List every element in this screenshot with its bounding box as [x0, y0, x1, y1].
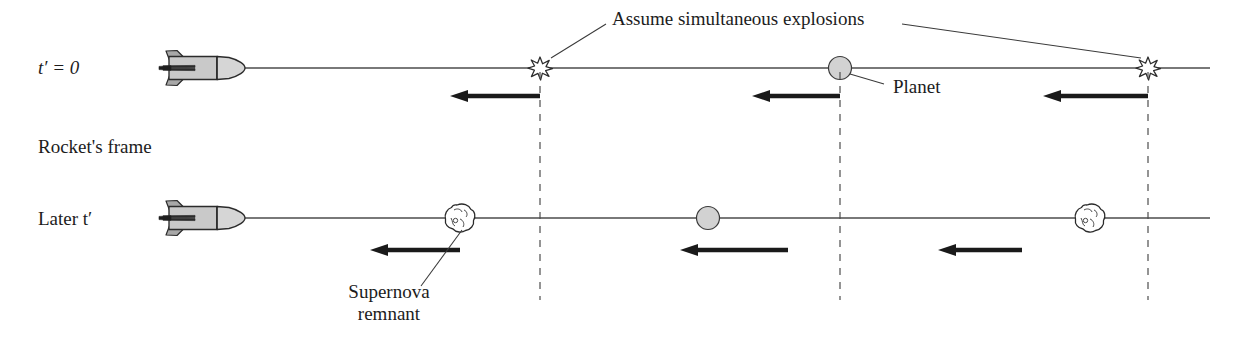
time-label-top: t′ = 0 — [38, 57, 79, 79]
supernova-remnant-right-icon — [1075, 204, 1105, 232]
leader-explosion-right — [902, 24, 1141, 58]
velocity-arrows-bottom — [370, 244, 1022, 256]
velocity-arrow — [752, 90, 840, 102]
rocket-top — [159, 51, 245, 86]
annotation-planet: Planet — [893, 76, 941, 98]
velocity-arrow — [680, 244, 788, 256]
dashed-guides — [540, 72, 1148, 300]
diagram-canvas — [0, 0, 1259, 346]
row-bottom-group — [159, 201, 1210, 257]
frame-label-text: Rocket's frame — [38, 136, 152, 157]
annotation-simultaneous-explosions-text: Assume simultaneous explosions — [612, 8, 864, 29]
velocity-arrow — [450, 90, 540, 102]
leader-planet — [850, 74, 884, 84]
velocity-arrow — [938, 244, 1022, 256]
planet-bottom-icon — [697, 207, 720, 230]
rocket-bottom — [159, 201, 245, 236]
annotation-supernova-remnant: Supernova remnant — [330, 281, 448, 326]
leader-explosion-left — [551, 24, 606, 58]
frame-label: Rocket's frame — [38, 136, 152, 158]
time-label-bottom-text: Later t′ — [38, 208, 92, 229]
leader-supernova — [421, 230, 462, 286]
annotation-supernova-remnant-line1: Supernova — [330, 281, 448, 303]
physics-diagram-relativity-simultaneity: t′ = 0 Rocket's frame Later t′ Assume si… — [0, 0, 1259, 346]
supernova-remnant-left-icon — [445, 204, 475, 232]
time-label-bottom: Later t′ — [38, 208, 92, 230]
velocity-arrows-top — [450, 90, 1148, 102]
leader-lines — [421, 24, 1141, 286]
velocity-arrow — [370, 244, 460, 256]
annotation-supernova-remnant-line2: remnant — [330, 303, 448, 325]
time-label-top-text: t′ = 0 — [38, 57, 79, 78]
row-top-group — [159, 51, 1210, 103]
annotation-planet-text: Planet — [893, 76, 941, 97]
annotation-simultaneous-explosions: Assume simultaneous explosions — [612, 8, 864, 30]
velocity-arrow — [1043, 90, 1148, 102]
